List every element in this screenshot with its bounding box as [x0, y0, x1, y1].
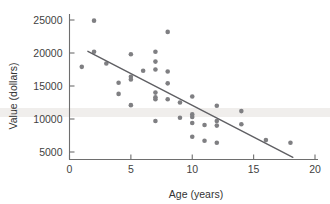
data-point: [190, 135, 195, 140]
data-point: [215, 140, 220, 145]
x-tick-labels: 05101520: [67, 163, 321, 175]
x-axis-title: Age (years): [169, 188, 223, 200]
x-axis: 05101520 Age (years): [67, 155, 321, 201]
y-tick-label: 5000: [39, 146, 63, 158]
y-tick-marks: [70, 20, 75, 152]
y-tick-labels: 500010000150002000025000: [33, 14, 62, 158]
data-point: [215, 123, 220, 128]
data-point: [165, 30, 170, 35]
data-point: [202, 138, 207, 143]
y-tick-label: 20000: [33, 47, 62, 59]
data-point: [165, 97, 170, 102]
data-point: [190, 94, 195, 99]
data-point: [129, 77, 134, 82]
x-tick-marks: [70, 155, 316, 160]
y-tick-label: 25000: [33, 14, 62, 26]
data-point: [165, 81, 170, 86]
data-point: [153, 90, 158, 95]
data-point: [178, 100, 183, 105]
x-tick-label: 0: [67, 163, 73, 175]
x-tick-label: 15: [248, 163, 260, 175]
data-point: [153, 49, 158, 54]
y-tick-label: 10000: [33, 113, 62, 125]
data-point: [190, 121, 195, 126]
data-point: [116, 80, 121, 85]
data-point: [215, 104, 220, 109]
data-point: [165, 69, 170, 74]
chart-canvas: 500010000150002000025000 Value (dollars)…: [0, 0, 330, 204]
data-points: [79, 18, 292, 145]
data-point: [153, 59, 158, 64]
data-point: [116, 92, 121, 97]
data-point: [202, 123, 207, 128]
data-point: [129, 103, 134, 108]
y-tick-label: 15000: [33, 80, 62, 92]
regression-line: [88, 51, 293, 157]
x-tick-label: 5: [128, 163, 134, 175]
x-tick-label: 20: [309, 163, 321, 175]
data-point: [190, 115, 195, 120]
y-axis-title: Value (dollars): [7, 63, 19, 130]
data-point: [239, 122, 244, 127]
data-point: [288, 140, 293, 145]
data-point: [239, 109, 244, 114]
y-axis: 500010000150002000025000 Value (dollars): [7, 14, 75, 160]
data-point: [153, 67, 158, 72]
data-point: [92, 18, 97, 23]
data-point: [178, 115, 183, 120]
data-point: [141, 69, 146, 74]
data-point: [153, 119, 158, 124]
data-point: [153, 97, 158, 102]
scatter-plot-figure: 500010000150002000025000 Value (dollars)…: [0, 0, 330, 204]
data-point: [79, 65, 84, 70]
data-point: [129, 52, 134, 57]
x-tick-label: 10: [186, 163, 198, 175]
